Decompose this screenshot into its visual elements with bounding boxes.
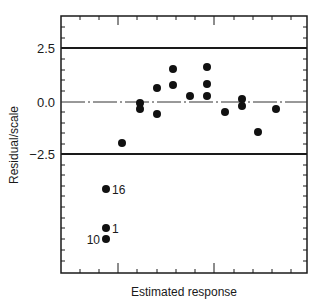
point-label-16: 16 [112, 183, 126, 197]
data-point [221, 108, 229, 116]
data-point [254, 128, 262, 136]
data-point [102, 224, 110, 232]
data-point [238, 95, 246, 103]
data-point [203, 63, 211, 71]
point-label-10: 10 [87, 233, 101, 247]
ytick-label: 0.0 [37, 95, 55, 110]
point-label-1: 1 [112, 222, 119, 236]
data-point [272, 105, 280, 113]
residual-plot: 2.5 0.0 −2.5 Estimated response Residual… [0, 0, 315, 303]
ytick-label: −2.5 [29, 147, 55, 162]
data-point [153, 84, 161, 92]
bottom-ticks [80, 263, 291, 273]
data-point [136, 105, 144, 113]
data-point [238, 102, 246, 110]
data-point [102, 185, 110, 193]
data-point [169, 65, 177, 73]
data-point [169, 81, 177, 89]
data-point [118, 139, 126, 147]
data-point [153, 110, 161, 118]
data-point [186, 92, 194, 100]
y-axis-title: Residual/scale [7, 106, 21, 184]
data-point [203, 92, 211, 100]
data-point [203, 80, 211, 88]
data-point [102, 235, 110, 243]
x-axis-title: Estimated response [131, 285, 237, 299]
ytick-label: 2.5 [37, 41, 55, 56]
top-ticks [80, 16, 291, 25]
